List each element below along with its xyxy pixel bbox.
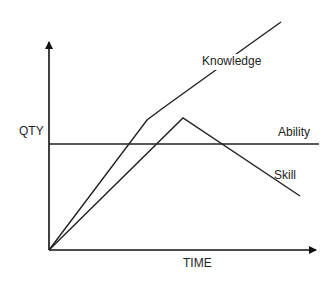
skill-line <box>49 118 300 250</box>
x-axis-label: TIME <box>183 257 212 269</box>
knowledge-label: Knowledge <box>202 55 261 67</box>
knowledge-line <box>49 108 163 250</box>
knowledge-line-mid <box>163 67 220 108</box>
ability-label: Ability <box>278 126 310 138</box>
skill-label: Skill <box>274 169 296 181</box>
y-axis-label: QTY <box>19 125 44 137</box>
chart-canvas <box>0 0 336 287</box>
